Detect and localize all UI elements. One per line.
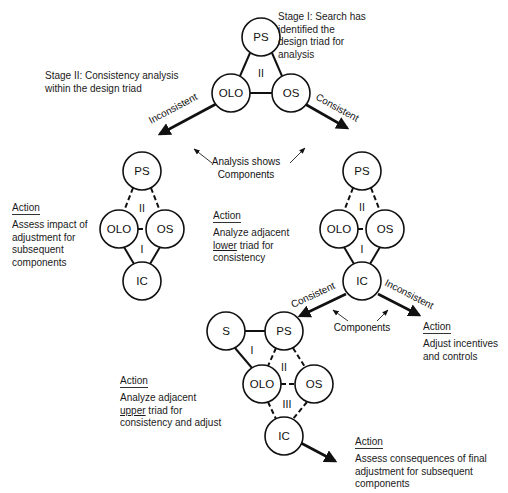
node-right-ps: PS (343, 152, 381, 190)
svg-text:IC: IC (278, 430, 290, 442)
svg-text:OS: OS (377, 223, 394, 235)
region-label: II (359, 201, 365, 213)
annotation-line: Analysis shows (212, 156, 280, 167)
node-bottom-ps: PS (265, 312, 303, 350)
pointer-arrow (333, 310, 348, 321)
left-action: Action Assess impact of adjustment for s… (12, 202, 88, 269)
node-top-ps: PS (242, 18, 280, 56)
action-title: Action (423, 321, 451, 334)
node-left-olo: OLO (100, 210, 138, 248)
consistent-label: Consistent (289, 280, 337, 310)
node-bottom-s: S (207, 312, 245, 350)
action-title: Action (213, 210, 241, 223)
region-label: II (281, 361, 287, 373)
svg-text:PS: PS (354, 165, 370, 177)
svg-text:IC: IC (136, 275, 148, 287)
svg-text:PS: PS (134, 165, 150, 177)
action-title: Action (120, 375, 148, 388)
region-label: II (139, 202, 145, 214)
svg-text:OS: OS (283, 87, 300, 99)
components-annotation: Components (334, 322, 391, 333)
action-title: Action (12, 202, 40, 215)
inconsistent-label: Inconsistent (383, 277, 436, 311)
stage2-caption: Stage II: Consistency analysis within th… (45, 70, 178, 95)
svg-text:PS: PS (276, 325, 292, 337)
node-bottom-os: OS (295, 365, 333, 403)
svg-text:OS: OS (157, 223, 174, 235)
pointer-arrow (290, 148, 305, 163)
node-bottom-olo: OLO (243, 365, 281, 403)
svg-text:OLO: OLO (219, 87, 243, 99)
node-left-ic: IC (123, 262, 161, 300)
region-label: II (258, 67, 264, 79)
node-right-os: OS (366, 210, 404, 248)
svg-text:OS: OS (306, 378, 323, 390)
middle-action: Action Analyze adjacent lower triad for … (213, 210, 289, 265)
node-left-os: OS (146, 210, 184, 248)
svg-text:PS: PS (253, 31, 269, 43)
pointer-arrow (377, 310, 388, 321)
node-left-ps: PS (123, 152, 161, 190)
annotation-line: Components (218, 169, 275, 180)
pointer-arrow (194, 149, 212, 163)
action-title: Action (355, 436, 383, 449)
region-label: I (251, 344, 254, 356)
region-label: III (283, 398, 292, 410)
node-top-olo: OLO (212, 74, 250, 112)
svg-text:OLO: OLO (107, 223, 131, 235)
bottom-right-action: Action Assess consequences of final adju… (355, 436, 487, 491)
svg-text:IC: IC (356, 275, 368, 287)
bottom-left-action: Action Analyze adjacent upper triad for … (120, 375, 221, 430)
final-arrow (301, 443, 335, 461)
node-bottom-ic: IC (265, 417, 303, 455)
node-right-ic: IC (343, 262, 381, 300)
svg-text:S: S (222, 325, 230, 337)
consistent-label: Consistent (314, 91, 361, 124)
inconsistent-label: Inconsistent (147, 91, 199, 126)
node-right-olo: OLO (320, 210, 358, 248)
svg-text:OLO: OLO (250, 378, 274, 390)
node-top-os: OS (272, 74, 310, 112)
stage1-caption: Stage I: Search has identified the desig… (278, 11, 366, 61)
right-action: Action Adjust incentives and controls (423, 321, 498, 363)
region-label: I (361, 243, 364, 255)
svg-text:OLO: OLO (327, 223, 351, 235)
region-label: I (141, 243, 144, 255)
